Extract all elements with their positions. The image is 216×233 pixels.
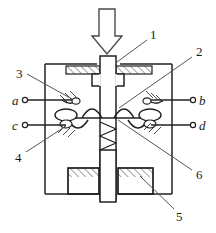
figure-root: 1 2 3 4 5 6 a b c d [0,0,216,233]
callout-label-1: 1 [150,27,157,42]
terminal-label-a: a [12,93,19,108]
callout-label-2: 2 [196,44,203,59]
terminal-node-b [190,97,195,102]
terminal-label-d: d [199,118,206,133]
terminal-label-c: c [12,118,18,133]
terminal-node-a [22,97,27,102]
callout-label-3: 3 [16,66,23,81]
push-rod-shaft-lower [100,150,116,202]
terminal-node-d [190,122,195,127]
terminal-node-c [22,122,27,127]
terminal-label-b: b [199,93,206,108]
callout-label-5: 5 [176,209,183,224]
callout-label-4: 4 [15,150,22,165]
callout-label-6: 6 [196,167,203,182]
switch-cross-section-diagram: 1 2 3 4 5 6 a b c d [0,0,216,233]
